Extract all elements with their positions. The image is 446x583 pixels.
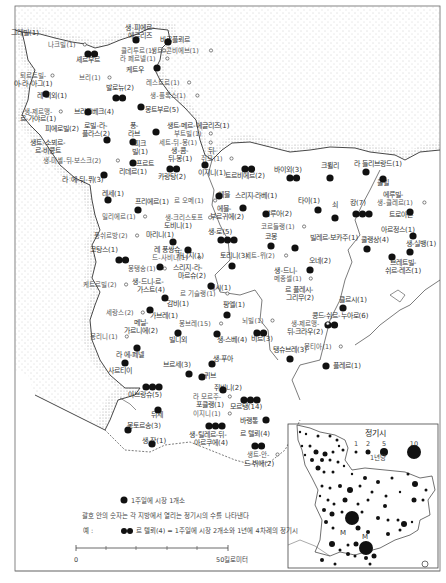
market-label: 아르정스(1) — [381, 225, 415, 234]
market-place: 가스트(4) — [137, 285, 165, 294]
market-label: 몽티아(1) — [304, 342, 331, 351]
market-label: 브르세(3) — [163, 360, 191, 369]
inset-fair-dot-icon — [357, 503, 360, 506]
market-label: 감비(1) — [167, 299, 189, 308]
inset-fair-dot-icon — [320, 558, 324, 562]
market-label: 퇴르트빌- — [20, 71, 47, 80]
fair-only-marker-icon — [339, 345, 342, 348]
legend-note: 괄호 안의 숫자는 각 지방에서 열리는 정기시의 수를 나타낸다 — [82, 511, 249, 520]
market-label: 몽브레(15) — [179, 319, 210, 328]
market-label: 코르들랭(1) — [261, 222, 294, 231]
market-label: 프르트 — [136, 160, 155, 168]
market-place: 생-미셸-뒤-보스크(2) — [43, 156, 120, 165]
weekly-market-dot-icon — [132, 36, 139, 43]
example-dot-icon — [121, 528, 127, 534]
market-label: 콩드-쉬르-누아로(6) — [312, 311, 369, 320]
market-label: 그레빌(1) — [11, 28, 39, 37]
market-place: 메닐- — [134, 318, 149, 327]
market-label: 생-플록스(1) — [150, 91, 186, 100]
market-place: 퐁쉬르방(2) — [94, 231, 138, 240]
inset-fair-dot-icon — [343, 498, 348, 503]
fair-only-marker-icon — [276, 453, 279, 456]
market-label: 생트-소뵈르- — [30, 138, 66, 147]
inset-map: 정기시 12510 1년당 M M — [288, 424, 438, 568]
fair-only-marker-icon — [125, 335, 128, 338]
fair-only-marker-icon — [230, 157, 233, 160]
weekly-market-dot-icon — [314, 206, 321, 213]
weekly-market-dot-icon — [406, 248, 413, 255]
inset-fair-dot-icon — [354, 542, 359, 547]
market-label: 코몽 — [265, 233, 278, 241]
market-label: 포클랭(1) — [196, 400, 224, 409]
market-place: 생트-안- — [247, 450, 279, 459]
weekly-market-dot-icon — [115, 256, 122, 263]
market-place: 이지니(1) — [198, 161, 226, 177]
market-place: 에루빌- — [383, 190, 404, 199]
market-label: 쿨랭상(4) — [361, 235, 389, 244]
market-label: 케트르빌(2) — [83, 281, 116, 289]
weekly-market-dot-icon — [322, 362, 329, 369]
weekly-market-dot-icon — [155, 383, 162, 390]
weekly-market-dot-icon — [84, 50, 91, 57]
market-place: 생-피에르- — [125, 23, 155, 32]
market-label: 라 에-뒤-퓌(3) — [62, 175, 103, 184]
weekly-market-dot-icon — [142, 383, 149, 390]
inset-fair-dot-icon — [385, 495, 388, 498]
market-place: 스리지-라- — [156, 263, 203, 272]
inset-fair-dot-icon — [334, 563, 337, 566]
inset-fair-dot-icon — [339, 549, 342, 552]
market-label: 르 오메(1) — [174, 197, 203, 205]
weekly-market-dot-icon — [173, 165, 180, 172]
weekly-market-dot-icon — [388, 253, 395, 260]
weekly-market-dot-icon — [212, 422, 219, 429]
fair-only-marker-icon — [209, 132, 212, 135]
market-place: 생-드니-르- — [132, 277, 164, 286]
market-label: 피에로빌(2) — [45, 124, 79, 133]
market-label: 바랭통 — [240, 416, 259, 425]
fair-only-marker-icon — [226, 292, 229, 295]
market-place: 발로뉴(2) — [106, 83, 134, 102]
weekly-market-dot-icon — [258, 442, 265, 449]
market-place: 세트-뮈(2) — [245, 251, 287, 260]
market-place: 코르들랭(1) — [261, 222, 305, 231]
market-place: 생-푸아 — [208, 354, 234, 368]
market-place: 피에로빌(2) — [45, 124, 79, 133]
market-label: 쉬르-레즈(1) — [385, 266, 422, 275]
market-label: 토리니(3) — [220, 251, 248, 260]
market-label: 레세(1) — [102, 189, 124, 198]
market-label: 라브 — [128, 129, 141, 138]
weekly-market-dot-icon — [119, 94, 126, 101]
market-place: 몽토르송(3) — [124, 422, 161, 434]
weekly-market-dot-icon — [100, 171, 107, 178]
inset-size-label: 2 — [366, 440, 370, 448]
weekly-market-dot-icon — [42, 90, 49, 97]
inset-fair-dot-icon — [310, 458, 314, 462]
weekly-market-dot-icon — [122, 256, 129, 263]
weekly-market-dot-icon — [124, 426, 131, 433]
weekly-market-dot-icon — [129, 159, 136, 166]
inset-fair-dot-icon — [323, 471, 326, 474]
fair-only-marker-icon — [125, 283, 128, 286]
inset-fair-dot-icon — [332, 527, 335, 530]
market-label: 부르귀에(2) — [210, 212, 244, 221]
scale-bar: 0 50킬로미터 — [74, 545, 248, 564]
weekly-market-dot-icon — [326, 174, 333, 181]
market-place: 로빌-라- — [84, 121, 108, 130]
inset-fair-dot-icon — [327, 499, 330, 502]
market-label: 부트빌(1) — [174, 130, 201, 138]
market-place: 몽트부르(5) — [137, 103, 179, 114]
market-place: 생-콤- — [171, 146, 189, 155]
inset-fair-dot-icon — [412, 498, 417, 503]
inset-fair-dot-icon — [329, 487, 332, 490]
inset-fair-dot-icon — [371, 491, 374, 494]
market-place: 아르쿠에(4) — [194, 438, 228, 447]
market-label: 몽탱송(1) — [128, 264, 155, 273]
fair-only-marker-icon — [141, 311, 144, 314]
fair-only-marker-icon — [303, 225, 306, 228]
market-place: 도비니(1) — [164, 221, 192, 230]
inset-fair-dot-icon — [387, 519, 390, 522]
weekly-market-dot-icon — [146, 306, 153, 313]
inset-fair-dot-icon — [346, 552, 350, 556]
inset-fair-dot-icon — [399, 529, 402, 532]
market-place: 레세(1) — [102, 189, 124, 204]
